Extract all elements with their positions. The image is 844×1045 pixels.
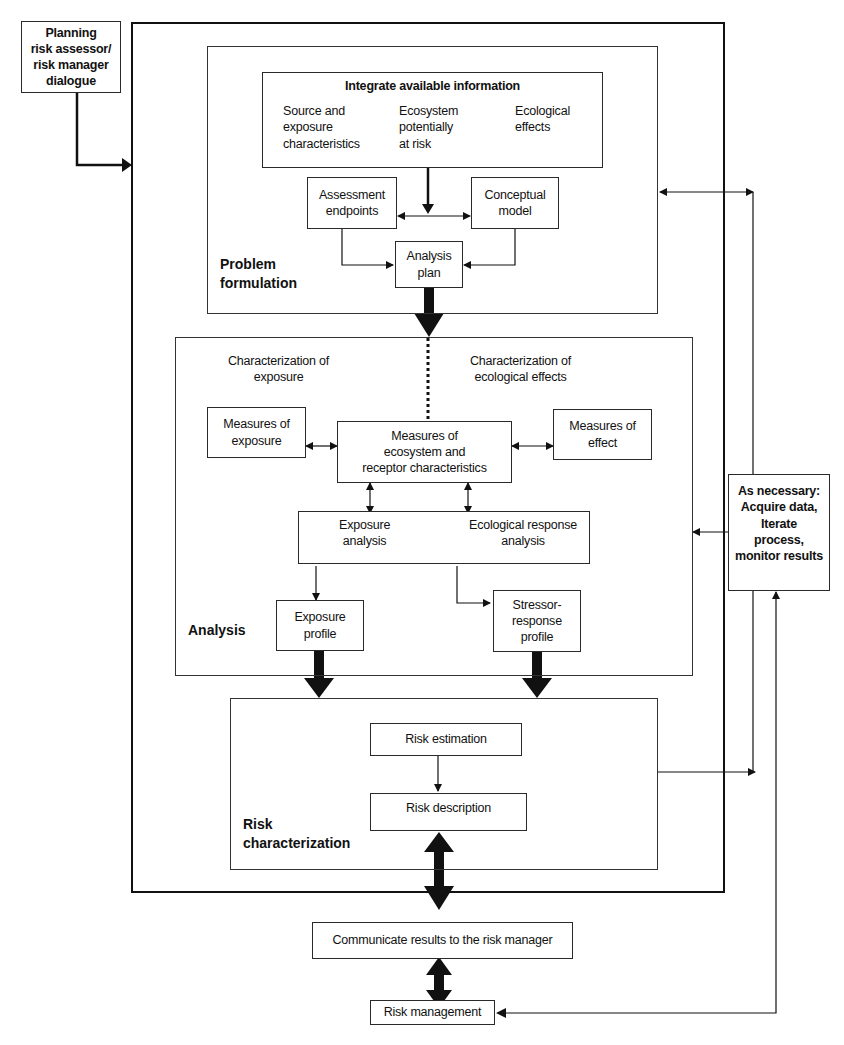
integrate-info-box: Integrate available information Source a…	[262, 72, 603, 168]
analysis-frame	[175, 337, 693, 676]
source-exposure-text: Source and exposure characteristics	[283, 103, 360, 152]
stressor-response-profile-box: Stressor- response profile	[493, 590, 581, 652]
measures-exposure-box: Measures of exposure	[207, 407, 306, 458]
risk-estimation-box: Risk estimation	[370, 723, 522, 756]
ecological-response-analysis-text: Ecological response analysis	[469, 517, 577, 550]
ecological-effects-text: Ecological effects	[515, 103, 570, 136]
analysis-plan-box: Analysis plan	[395, 241, 463, 288]
integrate-info-title: Integrate available information	[263, 78, 602, 94]
risk-description-box: Risk description	[370, 793, 527, 831]
measures-effect-box: Measures of effect	[553, 409, 652, 460]
communicate-results-box: Communicate results to the risk manager	[312, 922, 573, 959]
characterization-effects-label: Characterization of ecological effects	[470, 353, 571, 386]
as-necessary-box: As necessary: Acquire data, Iterate proc…	[728, 474, 830, 591]
problem-formulation-title: Problem formulation	[220, 255, 297, 293]
conceptual-model-box: Conceptual model	[471, 177, 559, 229]
assessment-endpoints-box: Assessment endpoints	[307, 177, 397, 229]
ecosystem-at-risk-text: Ecosystem potentially at risk	[399, 103, 458, 152]
analysis-title: Analysis	[188, 621, 246, 640]
measures-ecosystem-box: Measures of ecosystem and receptor chara…	[337, 421, 512, 483]
analysis-processes-box: Exposure analysis Ecological response an…	[298, 511, 590, 564]
exposure-analysis-text: Exposure analysis	[339, 517, 390, 550]
exposure-profile-box: Exposure profile	[276, 600, 364, 651]
planning-arrow	[77, 93, 132, 172]
risk-characterization-title: Risk characterization	[243, 815, 350, 853]
characterization-exposure-label: Characterization of exposure	[228, 353, 329, 386]
risk-management-box: Risk management	[370, 1000, 495, 1025]
planning-dialogue-box: Planning risk assessor/ risk manager dia…	[21, 21, 121, 93]
